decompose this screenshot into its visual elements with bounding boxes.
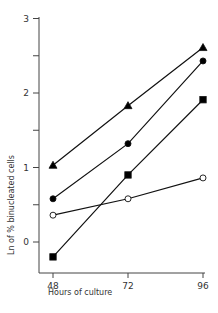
circle-marker [125,196,131,202]
series-open-circle [50,175,206,218]
axis-labels: Hours of culture Ln of % binucleated cel… [7,155,112,297]
triangle-marker [124,102,132,109]
circle-marker [125,141,131,147]
circle-marker [50,196,56,202]
y-tick-label: 2 [23,88,29,98]
circle-marker [200,58,206,64]
square-marker [50,254,56,260]
circle-marker [50,212,56,218]
circle-marker [200,175,206,181]
series-group [49,44,207,261]
x-tick-label: 96 [197,281,209,291]
x-tick-label: 72 [122,281,133,291]
square-marker [200,97,206,103]
line-chart: 0123487296 Hours of culture Ln of % binu… [0,0,218,313]
series-filled-circle [50,58,206,202]
y-tick-label: 3 [23,14,29,24]
y-tick-label: 0 [23,237,29,247]
series-filled-triangle [49,44,207,169]
y-tick-label: 1 [23,163,29,173]
x-axis-label: Hours of culture [48,288,112,297]
series-filled-square [50,97,206,261]
triangle-marker [199,44,207,51]
y-axis-label: Ln of % binucleated cells [7,155,16,255]
square-marker [125,172,131,178]
